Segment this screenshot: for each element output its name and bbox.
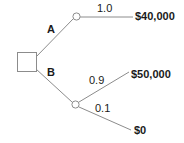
payoff-label-branch-b-high: $50,000 [131,69,171,80]
payoff-label-branch-a: $40,000 [135,11,175,22]
branch-label-a: A [47,24,55,35]
probability-label-branch-a: 1.0 [97,3,112,14]
chance-node-bottom-circle [72,101,79,108]
probability-label-branch-b-high: 0.9 [89,75,104,86]
payoff-label-branch-b-low: $0 [134,125,146,136]
decision-node-square [18,53,37,72]
probability-label-branch-b-low: 0.1 [95,103,110,114]
chance-node-top-circle [73,13,80,20]
decision-tree-diagram: A B 1.0 0.9 0.1 $40,000 $50,000 $0 [0,0,184,143]
branch-label-b: B [47,67,55,78]
